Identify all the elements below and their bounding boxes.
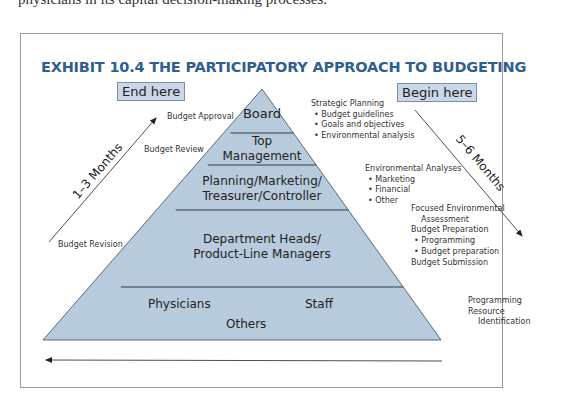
level-staff: Staff — [305, 297, 333, 312]
bottom-arrow — [46, 360, 442, 361]
focused-budget-block: Focused Environmental Assessment Budget … — [411, 204, 505, 268]
up-arrow — [49, 118, 156, 242]
level-department-heads: Department Heads/ Product-Line Managers — [162, 232, 362, 262]
level-board: Board — [222, 106, 302, 121]
strategic-planning-block: Strategic Planning • Budget guidelines •… — [311, 99, 414, 142]
level-planning: Planning/Marketing/ Treasurer/Controller — [182, 174, 342, 204]
level-top-management: Top Management — [202, 134, 322, 164]
level-others: Others — [226, 317, 266, 332]
level-physicians: Physicians — [148, 297, 211, 312]
budget-revision-label: Budget Revision — [58, 240, 123, 251]
programming-block: Programming Resource Identification — [468, 296, 530, 328]
budget-approval-label: Budget Approval — [167, 112, 234, 123]
budget-review-label: Budget Review — [144, 145, 204, 156]
environmental-analyses-block: Environmental Analyses • Marketing • Fin… — [365, 164, 461, 207]
end-here-tag: End here — [117, 82, 185, 101]
